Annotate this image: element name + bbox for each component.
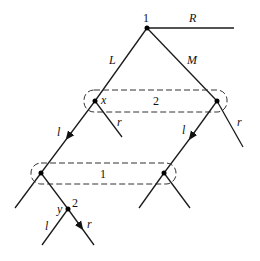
info-set-2-label: 2 [153, 94, 159, 108]
action-R-label: R [188, 11, 197, 25]
node-y-label: y [56, 202, 63, 216]
node-p1-left [39, 171, 44, 176]
edge-p1a-left [15, 173, 41, 208]
edge-m-l-cont [164, 137, 191, 173]
node-p1-right [162, 171, 167, 176]
y-l-label: l [45, 219, 49, 233]
y-r-label: r [87, 217, 92, 231]
node-x-label: x [100, 93, 107, 107]
edge-x-l [68, 101, 95, 137]
root-node [145, 26, 150, 31]
node-m [215, 99, 220, 104]
action-L-label: L [108, 53, 116, 67]
root-player-label: 1 [143, 11, 149, 25]
edge-m-l [191, 101, 217, 137]
x-l-label: l [57, 125, 61, 139]
m-r-label: r [237, 115, 242, 129]
edge-y-r [68, 209, 81, 227]
edge-p1a-right [41, 173, 68, 209]
m-l-label: l [182, 123, 186, 137]
game-tree: 1 R L M x 2 l r l r 1 2 y l r [0, 0, 260, 261]
action-M-label: M [186, 53, 198, 67]
edge-x-l-cont [41, 137, 68, 173]
node-y-player-label: 2 [72, 196, 78, 210]
node-y [66, 207, 71, 212]
x-r-label: r [117, 115, 122, 129]
edge-p1b-left [139, 173, 164, 208]
info-set-1-label: 1 [100, 167, 106, 181]
edge-p1b-right [164, 173, 190, 208]
node-x [93, 99, 98, 104]
